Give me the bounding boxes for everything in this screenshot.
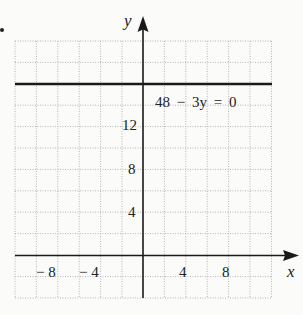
y-tick-8: 8 bbox=[128, 162, 136, 177]
problem-bullet bbox=[0, 28, 4, 32]
y-tick-4: 4 bbox=[128, 205, 136, 220]
x-tick-4: 4 bbox=[179, 265, 187, 280]
equation-label: 48 − 3y = 0 bbox=[155, 95, 236, 110]
x-tick-minus-4: − 4 bbox=[79, 265, 99, 280]
y-tick-12: 12 bbox=[122, 118, 137, 133]
x-axis-label: x bbox=[287, 263, 295, 280]
x-tick-minus-8: − 8 bbox=[36, 265, 56, 280]
x-axis-arrow-icon bbox=[283, 250, 299, 261]
graph: y x 48 − 3y = 0 12 8 4 − 8 − 4 4 8 bbox=[0, 0, 303, 315]
x-tick-8: 8 bbox=[222, 265, 230, 280]
y-axis-label: y bbox=[124, 12, 132, 29]
